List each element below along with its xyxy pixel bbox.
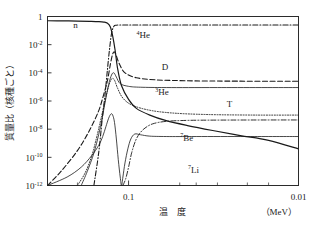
series-label-He4: 4He — [136, 30, 150, 40]
figure-canvas: 110-210-410-610-810-1010-12 0.10.01 n4He… — [0, 0, 321, 230]
series-label-D: D — [162, 62, 169, 72]
series-label-T: T — [227, 99, 233, 109]
x-axis-title-text: 温 度 — [159, 206, 186, 217]
y-axis-title: 質量比（核種ごと） — [4, 60, 15, 141]
series-label-He3: 3He — [155, 87, 169, 97]
series-label-n: n — [73, 20, 78, 30]
x-tick-label: 0.1 — [123, 192, 134, 202]
x-tick-label: 0.01 — [291, 192, 307, 202]
x-axis-unit-label: （MeV） — [261, 207, 298, 217]
y-axis-title-text: 質量比（核種ごと） — [4, 60, 15, 141]
nucleosynthesis-chart: 110-210-410-610-810-1010-12 0.10.01 n4He… — [0, 0, 321, 230]
y-tick-label: 1 — [38, 12, 43, 22]
